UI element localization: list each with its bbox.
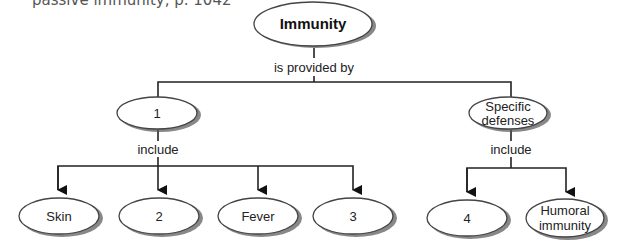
node-fever: Fever: [218, 198, 302, 237]
branch1-bus: [58, 166, 353, 190]
node-humoral-line1: Humoral: [540, 203, 589, 218]
node-3: 3: [313, 198, 397, 237]
node-1-label: 1: [153, 106, 160, 121]
concept-map: is provided by include include Immunity …: [0, 0, 638, 251]
node-humoral-immunity: Humoral immunity: [526, 199, 608, 240]
branch2-bus: [467, 168, 566, 192]
branch1-link-label: include: [137, 142, 178, 157]
node-skin: Skin: [19, 198, 103, 237]
node-2: 2: [119, 198, 203, 237]
root-bus: [158, 82, 511, 97]
node-skin-label: Skin: [46, 209, 71, 224]
node-specific-defenses-line2: defenses: [482, 113, 535, 128]
branch2-link-label: include: [490, 142, 531, 157]
node-specific-defenses: Specific defenses: [469, 97, 551, 132]
node-1: 1: [117, 97, 201, 132]
node-immunity: Immunity: [254, 2, 376, 48]
node-4: 4: [427, 200, 511, 239]
root-link-label: is provided by: [274, 60, 355, 75]
node-immunity-label: Immunity: [280, 15, 347, 32]
node-4-label: 4: [463, 211, 470, 226]
node-2-label: 2: [155, 209, 162, 224]
node-3-label: 3: [349, 209, 356, 224]
node-specific-defenses-line1: Specific: [485, 99, 531, 114]
node-fever-label: Fever: [241, 209, 275, 224]
node-humoral-line2: immunity: [539, 218, 592, 233]
